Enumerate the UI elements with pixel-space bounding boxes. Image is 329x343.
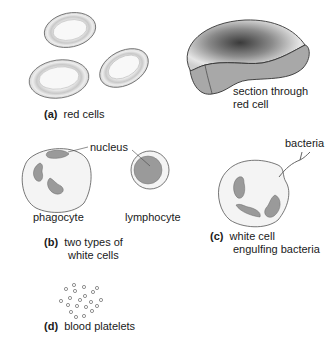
phagocyte-cell [22, 149, 91, 213]
caption-red-cells: (a) red cells [44, 108, 105, 121]
label-nucleus: nucleus [90, 141, 128, 154]
red-cell-1 [41, 8, 99, 52]
blood-cells-diagram [0, 0, 329, 343]
lymphocyte-cell [131, 151, 169, 189]
red-cell-2 [27, 56, 92, 102]
engulfing-white-cell [218, 160, 288, 227]
label-lymphocyte: lymphocyte [125, 211, 181, 224]
label-bacteria: bacteria [285, 137, 324, 150]
platelets [59, 283, 102, 318]
red-cell-section [187, 20, 309, 94]
red-cell-3 [93, 41, 155, 95]
caption-white-cells: (b) two types of white cells [44, 236, 123, 262]
caption-section-red-cell: section through red cell [233, 85, 308, 111]
label-phagocyte: phagocyte [33, 211, 84, 224]
caption-engulfing: (c) white cell engulfing bacteria [210, 230, 320, 256]
caption-platelets: (d) blood platelets [44, 320, 135, 333]
